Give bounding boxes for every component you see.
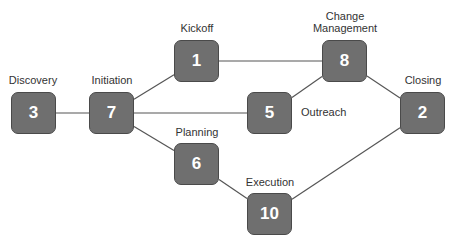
- node-closing[interactable]: 2: [400, 92, 445, 134]
- node-change-management[interactable]: 8: [322, 40, 367, 82]
- label-execution: Execution: [246, 176, 294, 188]
- node-number: 8: [340, 51, 349, 71]
- node-number: 3: [29, 103, 38, 123]
- node-planning[interactable]: 6: [174, 143, 219, 185]
- label-kickoff: Kickoff: [181, 22, 214, 34]
- edge-initiation-to-kickoff: [134, 75, 174, 99]
- node-number: 6: [192, 154, 201, 174]
- node-discovery[interactable]: 3: [11, 92, 56, 134]
- edge-execution-to-closing: [292, 128, 400, 199]
- label-discovery: Discovery: [9, 74, 57, 86]
- node-number: 2: [418, 103, 427, 123]
- label-closing: Closing: [405, 74, 442, 86]
- label-outreach: Outreach: [301, 106, 346, 118]
- edge-planning-to-execution: [219, 179, 247, 198]
- node-execution[interactable]: 10: [247, 193, 292, 235]
- edge-initiation-to-planning: [134, 127, 174, 151]
- edges-layer: [0, 0, 457, 244]
- node-number: 5: [265, 103, 274, 123]
- edge-change-management-to-closing: [367, 76, 400, 98]
- node-initiation[interactable]: 7: [89, 92, 134, 134]
- edge-outreach-to-change-management: [292, 77, 322, 98]
- node-number: 1: [192, 51, 201, 71]
- label-change-management: Change Management: [313, 10, 377, 34]
- label-planning: Planning: [176, 126, 219, 138]
- label-initiation: Initiation: [92, 74, 133, 86]
- node-number: 10: [260, 204, 279, 224]
- node-outreach[interactable]: 5: [247, 92, 292, 134]
- node-number: 7: [107, 103, 116, 123]
- node-kickoff[interactable]: 1: [174, 40, 219, 82]
